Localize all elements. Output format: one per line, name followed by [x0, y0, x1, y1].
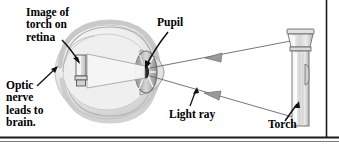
leader-light-ray-arrowhead: [193, 87, 199, 94]
torch-switch: [305, 64, 309, 85]
torch-neck-ring: [290, 47, 311, 51]
label-light-ray: Light ray: [169, 108, 215, 120]
label-torch: Torch: [268, 118, 297, 130]
label-pupil: Pupil: [157, 16, 183, 28]
light-ray-upper: [150, 40, 296, 68]
light-ray-arrowhead-upper: [205, 53, 222, 62]
torch-head: [288, 34, 313, 47]
label-image-on-retina: Image of torch on retina: [26, 6, 69, 43]
retina-torch-collar: [75, 76, 87, 80]
light-ray-arrowhead-lower: [204, 91, 221, 100]
torch-body: [292, 51, 309, 126]
light-rays-group: [150, 40, 296, 118]
torch-bezel: [287, 29, 314, 34]
label-optic-nerve: Optic nerve leads to brain.: [6, 79, 43, 129]
figure-eye-torch-light-ray: Image of torch on retina Optic nerve lea…: [0, 0, 339, 149]
retina-torch-head: [77, 80, 86, 86]
